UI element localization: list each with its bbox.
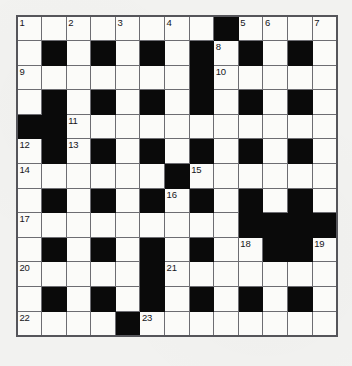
crossword-cell[interactable] (214, 287, 239, 312)
crossword-cell-numbered-5[interactable]: 5 (238, 16, 263, 41)
crossword-cell[interactable] (165, 90, 190, 115)
crossword-cell[interactable] (115, 188, 140, 213)
crossword-cell[interactable] (288, 164, 313, 189)
crossword-cell-numbered-2[interactable]: 2 (66, 16, 91, 41)
crossword-cell[interactable] (263, 90, 288, 115)
crossword-cell[interactable] (17, 90, 42, 115)
crossword-cell[interactable] (189, 213, 214, 238)
crossword-cell[interactable] (263, 164, 288, 189)
crossword-cell[interactable] (214, 114, 239, 139)
crossword-cell-numbered-1[interactable]: 1 (17, 16, 42, 41)
crossword-cell[interactable] (189, 16, 214, 41)
crossword-cell[interactable] (115, 262, 140, 287)
crossword-cell[interactable] (312, 164, 337, 189)
crossword-cell-numbered-15[interactable]: 15 (189, 164, 214, 189)
crossword-cell[interactable] (42, 311, 67, 336)
crossword-cell[interactable] (263, 188, 288, 213)
crossword-cell[interactable] (312, 114, 337, 139)
crossword-cell[interactable] (288, 65, 313, 90)
crossword-cell[interactable] (17, 188, 42, 213)
crossword-cell[interactable] (288, 262, 313, 287)
crossword-cell-numbered-17[interactable]: 17 (17, 213, 42, 238)
crossword-cell[interactable] (165, 139, 190, 164)
crossword-cell[interactable] (312, 90, 337, 115)
crossword-cell-numbered-3[interactable]: 3 (115, 16, 140, 41)
crossword-cell[interactable] (115, 213, 140, 238)
crossword-cell[interactable] (263, 262, 288, 287)
crossword-cell-numbered-9[interactable]: 9 (17, 65, 42, 90)
crossword-cell[interactable] (66, 41, 91, 66)
crossword-cell[interactable] (214, 311, 239, 336)
crossword-cell[interactable] (91, 114, 116, 139)
crossword-cell[interactable] (165, 65, 190, 90)
crossword-cell[interactable] (66, 164, 91, 189)
crossword-cell[interactable] (214, 237, 239, 262)
crossword-cell[interactable] (214, 139, 239, 164)
crossword-cell[interactable] (140, 213, 165, 238)
crossword-cell[interactable] (189, 114, 214, 139)
crossword-cell[interactable] (17, 41, 42, 66)
crossword-cell[interactable] (263, 287, 288, 312)
crossword-cell[interactable] (91, 213, 116, 238)
crossword-cell[interactable] (66, 90, 91, 115)
crossword-cell[interactable] (91, 164, 116, 189)
crossword-cell[interactable] (214, 90, 239, 115)
crossword-cell[interactable] (115, 237, 140, 262)
crossword-cell[interactable] (165, 213, 190, 238)
crossword-cell[interactable] (312, 41, 337, 66)
crossword-cell[interactable] (66, 213, 91, 238)
crossword-cell-numbered-22[interactable]: 22 (17, 311, 42, 336)
crossword-cell[interactable] (42, 262, 67, 287)
crossword-cell[interactable] (115, 164, 140, 189)
crossword-cell[interactable] (115, 41, 140, 66)
crossword-cell[interactable] (263, 311, 288, 336)
crossword-cell[interactable] (42, 16, 67, 41)
crossword-cell[interactable] (66, 65, 91, 90)
crossword-cell[interactable] (238, 311, 263, 336)
crossword-cell[interactable] (288, 114, 313, 139)
crossword-cell[interactable] (238, 114, 263, 139)
crossword-cell-numbered-19[interactable]: 19 (312, 237, 337, 262)
crossword-cell[interactable] (140, 114, 165, 139)
crossword-cell-numbered-13[interactable]: 13 (66, 139, 91, 164)
crossword-cell[interactable] (165, 311, 190, 336)
crossword-cell[interactable] (91, 65, 116, 90)
crossword-cell-numbered-20[interactable]: 20 (17, 262, 42, 287)
crossword-cell[interactable] (263, 65, 288, 90)
crossword-cell[interactable] (91, 262, 116, 287)
crossword-cell[interactable] (165, 41, 190, 66)
crossword-cell[interactable] (42, 213, 67, 238)
crossword-cell-numbered-6[interactable]: 6 (263, 16, 288, 41)
crossword-cell[interactable] (115, 65, 140, 90)
crossword-cell-numbered-12[interactable]: 12 (17, 139, 42, 164)
crossword-cell[interactable] (17, 237, 42, 262)
crossword-cell[interactable] (115, 90, 140, 115)
crossword-cell[interactable] (312, 311, 337, 336)
crossword-cell[interactable] (140, 16, 165, 41)
crossword-cell[interactable] (140, 65, 165, 90)
crossword-cell-numbered-23[interactable]: 23 (140, 311, 165, 336)
crossword-cell-numbered-21[interactable]: 21 (165, 262, 190, 287)
crossword-cell[interactable] (263, 41, 288, 66)
crossword-cell-numbered-18[interactable]: 18 (238, 237, 263, 262)
crossword-cell-numbered-8[interactable]: 8 (214, 41, 239, 66)
crossword-cell[interactable] (312, 188, 337, 213)
crossword-cell[interactable] (66, 262, 91, 287)
crossword-cell[interactable] (115, 139, 140, 164)
crossword-cell[interactable] (288, 16, 313, 41)
crossword-cell[interactable] (91, 16, 116, 41)
crossword-cell[interactable] (312, 262, 337, 287)
crossword-cell[interactable] (165, 287, 190, 312)
crossword-cell[interactable] (115, 114, 140, 139)
crossword-cell[interactable] (238, 65, 263, 90)
crossword-cell[interactable] (42, 65, 67, 90)
crossword-cell[interactable] (288, 311, 313, 336)
crossword-cell[interactable] (17, 287, 42, 312)
crossword-cell[interactable] (214, 188, 239, 213)
crossword-cell-numbered-16[interactable]: 16 (165, 188, 190, 213)
crossword-cell[interactable] (66, 188, 91, 213)
crossword-cell[interactable] (66, 237, 91, 262)
crossword-cell[interactable] (312, 65, 337, 90)
crossword-cell[interactable] (238, 262, 263, 287)
crossword-cell-numbered-14[interactable]: 14 (17, 164, 42, 189)
